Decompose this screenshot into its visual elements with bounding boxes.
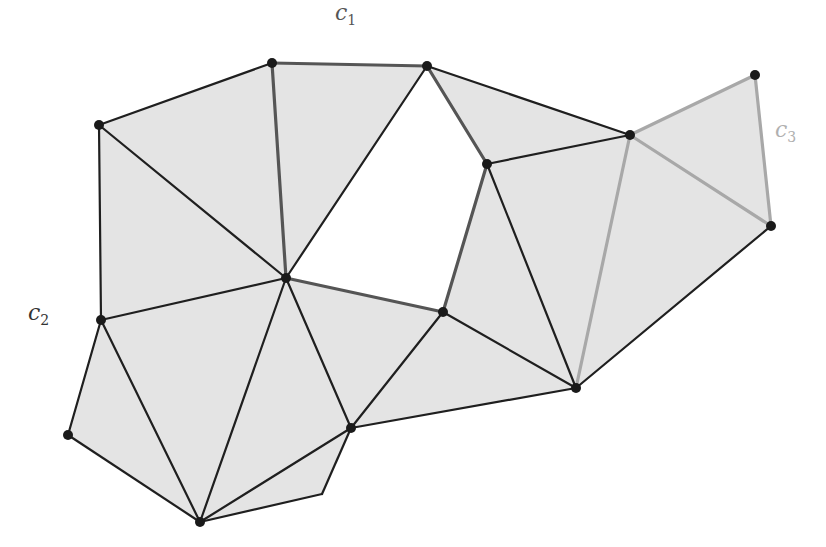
- vertex-b: [267, 58, 277, 68]
- vertex-m: [346, 423, 356, 433]
- label-c1: c1: [335, 0, 356, 28]
- vertex-g: [766, 221, 776, 231]
- vertex-d: [482, 159, 492, 169]
- vertex-i: [438, 307, 448, 317]
- vertex-a: [94, 120, 104, 130]
- vertex-e: [625, 130, 635, 140]
- vertex-h: [281, 273, 291, 283]
- vertex-l: [195, 517, 205, 527]
- vertex-k: [63, 430, 73, 440]
- vertex-c: [422, 61, 432, 71]
- vertex-j: [96, 315, 106, 325]
- vertex-n: [571, 383, 581, 393]
- triangulated-graph-diagram: [0, 0, 826, 547]
- label-c2: c2: [28, 300, 49, 328]
- vertex-f: [750, 70, 760, 80]
- label-c3: c3: [775, 117, 796, 145]
- face-bch: [272, 63, 427, 278]
- shaded-faces: [68, 63, 771, 522]
